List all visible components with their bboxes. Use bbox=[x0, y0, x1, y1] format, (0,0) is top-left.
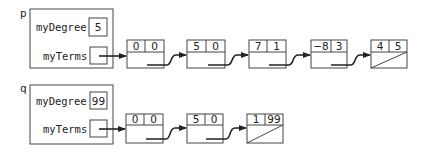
variable-label-p: p bbox=[20, 7, 27, 20]
coef: 5 bbox=[193, 40, 200, 52]
exp: 0 bbox=[212, 40, 219, 52]
exp: 5 bbox=[395, 40, 402, 52]
object-p: p myDegree 5 myTerms bbox=[20, 7, 126, 68]
coef: −8 bbox=[313, 40, 328, 52]
q-node-1: 0 0 bbox=[126, 113, 186, 143]
p-node-3: 7 1 bbox=[249, 40, 310, 68]
object-q: q myDegree 99 myTerms bbox=[20, 82, 125, 144]
q-degree-label: myDegree bbox=[36, 95, 87, 107]
coef: 7 bbox=[255, 40, 262, 52]
coef: 5 bbox=[193, 113, 200, 125]
linked-list-diagram: p myDegree 5 myTerms 0 0 5 0 7 1 bbox=[0, 0, 425, 155]
coef: 1 bbox=[253, 113, 260, 125]
p-node-5: 4 5 bbox=[371, 40, 407, 68]
q-degree-value: 99 bbox=[92, 95, 105, 107]
exp: 0 bbox=[150, 113, 157, 125]
p-node-2: 5 0 bbox=[187, 40, 248, 68]
exp: 0 bbox=[211, 113, 218, 125]
p-degree-value: 5 bbox=[95, 21, 102, 33]
exp: 1 bbox=[273, 40, 280, 52]
coef: 4 bbox=[377, 40, 384, 52]
p-degree-label: myDegree bbox=[36, 21, 87, 33]
exp: 3 bbox=[336, 40, 343, 52]
q-node-3: 1 99 bbox=[247, 113, 283, 143]
p-node-1: 0 0 bbox=[127, 40, 186, 68]
p-node-4: −8 3 bbox=[311, 40, 370, 68]
q-node-2: 5 0 bbox=[187, 113, 246, 143]
variable-label-q: q bbox=[20, 82, 27, 95]
p-terms-label: myTerms bbox=[43, 50, 87, 62]
exp: 0 bbox=[151, 40, 158, 52]
exp: 99 bbox=[267, 113, 280, 125]
q-terms-label: myTerms bbox=[43, 123, 87, 135]
coef: 0 bbox=[132, 113, 139, 125]
coef: 0 bbox=[133, 40, 140, 52]
